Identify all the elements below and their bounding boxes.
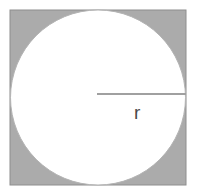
circle-in-square-diagram: r: [0, 0, 197, 196]
inscribed-circle: [11, 10, 186, 185]
figure-container: r: [0, 0, 197, 196]
radius-label: r: [134, 102, 141, 123]
